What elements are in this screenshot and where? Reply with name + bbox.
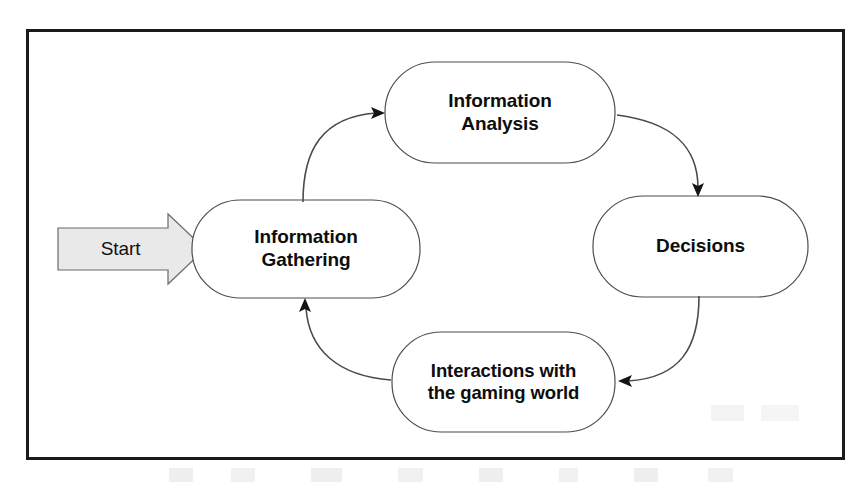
diagram-canvas: Start Information Gathering Information … xyxy=(0,0,863,489)
node-label-interactions-gaming-world: Interactions with the gaming world xyxy=(392,332,615,432)
node-label-decisions: Decisions xyxy=(593,196,808,297)
node-label-information-gathering: Information Gathering xyxy=(192,200,420,298)
start-label: Start xyxy=(58,228,183,270)
scan-artifact-bottom xyxy=(150,468,770,482)
node-label-information-analysis: Information Analysis xyxy=(385,62,615,163)
scan-artifact-right xyxy=(700,405,810,421)
